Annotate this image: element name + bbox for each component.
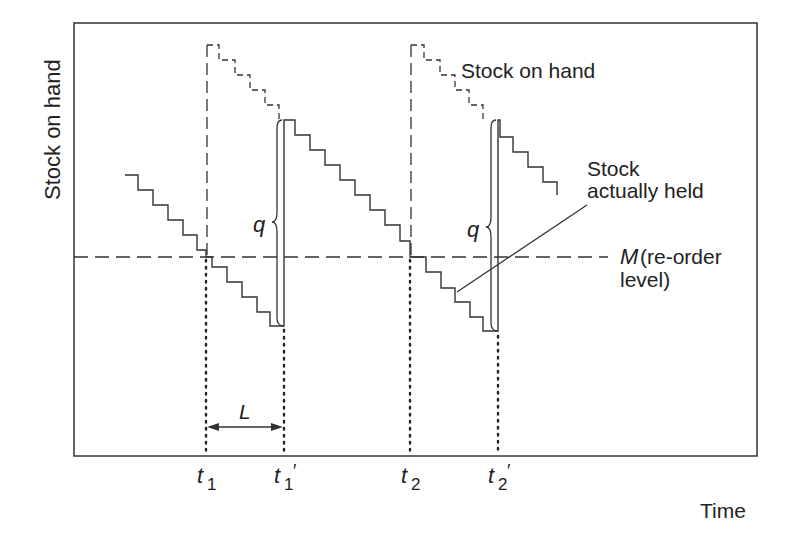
stock-held-label-1: Stock — [587, 157, 640, 180]
y-axis-label: Stock on hand — [40, 59, 65, 200]
reorder-text-2: level) — [620, 268, 670, 291]
q-label-2: q — [467, 217, 480, 242]
stock-actually-held-line — [125, 120, 557, 331]
tick-t2-prime: t 2 ′ — [488, 461, 511, 494]
svg-text:1: 1 — [207, 475, 216, 494]
stock-on-hand-label: Stock on hand — [461, 59, 595, 82]
tick-t1: t 1 — [197, 463, 216, 494]
stock-on-hand-steps-2 — [411, 45, 483, 120]
plot-frame — [74, 23, 757, 456]
q-brace-2 — [486, 120, 498, 331]
x-axis-label: Time — [700, 499, 746, 522]
inventory-diagram: Stock on hand Time Stock on hand Stock a… — [0, 0, 795, 546]
svg-text:t: t — [488, 463, 495, 488]
q-label-1: q — [253, 212, 266, 237]
reorder-M-label: M — [620, 244, 639, 269]
arrow-head-left-icon — [207, 423, 219, 431]
svg-text:t: t — [197, 463, 204, 488]
q-brace-1 — [272, 120, 284, 326]
lead-time-label: L — [239, 400, 251, 423]
reorder-text-1: (re-order — [640, 245, 722, 268]
stock-held-label-2: actually held — [587, 179, 704, 202]
arrow-head-right-icon — [271, 423, 283, 431]
tick-t1-prime: t 1 ′ — [274, 461, 297, 494]
dotted-lines — [206, 260, 498, 452]
svg-text:t: t — [274, 463, 281, 488]
svg-text:′: ′ — [293, 461, 297, 481]
svg-text:′: ′ — [507, 461, 511, 481]
svg-text:t: t — [401, 463, 408, 488]
stock-on-hand-steps-1 — [207, 45, 279, 120]
tick-t2: t 2 — [401, 463, 420, 494]
svg-text:2: 2 — [411, 475, 420, 494]
